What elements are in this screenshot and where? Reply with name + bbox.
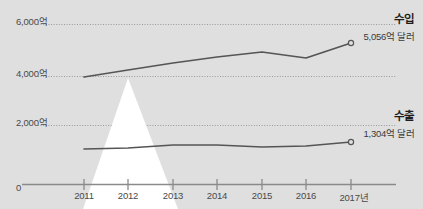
chart-plot-area: [0, 0, 423, 209]
series-label-export: 수출: [394, 107, 415, 123]
series-value-export: 1,304억 달러: [363, 126, 415, 140]
x-tick-label-2012: 2012: [118, 190, 138, 201]
y-tick-label-4000: 4,000억: [16, 66, 48, 80]
y-axis-origin-label: 0: [16, 182, 21, 193]
marker-export-2017: [348, 139, 353, 144]
x-tick-label-2016: 2016: [296, 190, 316, 201]
y-tick-label-2000: 2,000억: [16, 115, 48, 129]
x-tick-label-2015: 2015: [252, 190, 272, 201]
series-label-import: 수입: [394, 10, 415, 26]
series-value-import: 5,056억 달러: [363, 29, 415, 43]
marker-import-2017: [348, 40, 353, 45]
series-line-import: [84, 43, 351, 77]
x-tick-label-2014: 2014: [207, 190, 227, 201]
trade-line-chart: 6,000억 4,000억 2,000억 0 2011 2012 2013 20…: [0, 0, 423, 209]
y-tick-label-6000: 6,000억: [16, 14, 48, 28]
x-tick-label-2013: 2013: [163, 190, 183, 201]
x-tick-label-2017: 2017년: [339, 190, 368, 204]
x-tick-label-2011: 2011: [74, 190, 94, 201]
